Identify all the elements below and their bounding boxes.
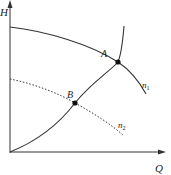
curve-n2-label-sub: 2 (123, 125, 126, 131)
pump-curve-diagram: H Q A B n1 n2 (0, 0, 171, 175)
curve-n2 (10, 79, 124, 136)
x-axis-arrow-icon (158, 150, 166, 155)
point-a-marker (115, 59, 120, 64)
point-b-marker (72, 100, 77, 105)
point-a-label: A (100, 48, 108, 59)
point-b-label: B (67, 89, 73, 100)
y-axis-arrow-icon (8, 0, 13, 8)
curve-n2-label: n2 (118, 120, 126, 131)
curve-n1-label: n1 (142, 80, 150, 91)
x-axis-label: Q (155, 162, 163, 174)
y-axis-label: H (0, 6, 9, 18)
curve-n1-label-sub: 1 (147, 85, 150, 91)
